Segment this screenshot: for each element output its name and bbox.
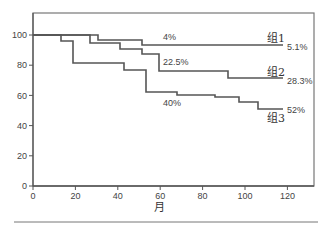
y-tick-label: 60 — [17, 91, 27, 101]
group3-mid-label: 40% — [163, 98, 181, 108]
x-tick-label: 80 — [198, 191, 208, 201]
y-tick-label: 40 — [17, 121, 27, 131]
group1-label: 组1 — [267, 31, 285, 45]
group2-mid-label: 22.5% — [163, 57, 189, 67]
x-axis-title: 月 — [154, 201, 165, 214]
group2-label: 组2 — [267, 65, 285, 79]
y-tick-label: 20 — [17, 151, 27, 161]
group3-end-label: 52% — [287, 105, 305, 115]
x-tick-label: 0 — [30, 191, 35, 201]
group1-end-label: 5.1% — [287, 42, 308, 52]
y-tick-label: 0 — [22, 181, 27, 191]
y-tick-label: 80 — [17, 60, 27, 70]
x-tick-label: 60 — [155, 191, 165, 201]
x-tick-label: 20 — [70, 191, 80, 201]
group2-end-label: 28.3% — [287, 76, 313, 86]
x-tick-label: 100 — [237, 191, 252, 201]
x-tick-label: 120 — [280, 191, 295, 201]
km-chart: 0 20 40 60 80 100 0 20 40 60 80 100 120 … — [0, 0, 329, 226]
y-tick-label: 100 — [12, 30, 27, 40]
group1-mid-label: 4% — [163, 32, 176, 42]
group3-label: 组3 — [267, 111, 285, 125]
x-tick-label: 40 — [113, 191, 123, 201]
